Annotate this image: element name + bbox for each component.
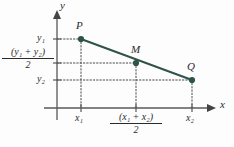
point-Q-label: Q bbox=[187, 61, 195, 72]
point-Q bbox=[189, 77, 195, 83]
y-midpoint-denominator: 2 bbox=[2, 59, 54, 70]
y-axis-arrowhead bbox=[53, 10, 61, 19]
point-P bbox=[78, 36, 84, 42]
point-M bbox=[133, 60, 139, 66]
point-P-label: P bbox=[76, 20, 83, 31]
x-tick-label-x2: x₂ bbox=[186, 113, 194, 123]
tick-marks-group bbox=[53, 39, 192, 112]
x-axis-arrowhead bbox=[207, 104, 216, 112]
y-tick-label-y2: y₂ bbox=[37, 74, 45, 84]
x-midpoint-denominator: 2 bbox=[110, 124, 162, 135]
y-axis-label: y bbox=[60, 0, 65, 11]
y-midpoint-numerator: (y₁ + y₂) bbox=[2, 47, 54, 59]
point-M-label: M bbox=[131, 44, 140, 55]
x-midpoint-numerator: (x₁ + x₂) bbox=[110, 112, 162, 124]
midpoint-formula-diagram: y x P M Q y₁ y₂ (y₁ + y₂) 2 x₁ x₂ (x₁ + … bbox=[0, 0, 234, 147]
x-tick-label-x1: x₁ bbox=[75, 113, 83, 123]
x-axis-label: x bbox=[220, 99, 225, 110]
x-midpoint-fraction-label: (x₁ + x₂) 2 bbox=[110, 112, 162, 135]
y-midpoint-fraction-label: (y₁ + y₂) 2 bbox=[2, 47, 54, 70]
y-tick-label-y1: y₁ bbox=[37, 33, 45, 43]
